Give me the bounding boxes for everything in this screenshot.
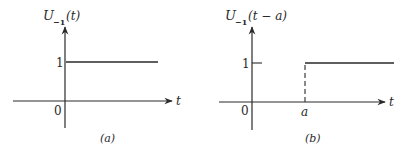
x-label-b: t	[389, 95, 394, 109]
panel-a: U −1 (t) 1 0 t (a)	[13, 8, 181, 145]
level-label-a: 1	[56, 56, 64, 70]
y-label-arg-b: (t − a)	[248, 9, 287, 23]
step-label-b: a	[301, 105, 308, 119]
caption-a: (a)	[100, 132, 115, 145]
level-label-b: 1	[242, 57, 250, 71]
y-label-arg-a: (t)	[66, 9, 81, 23]
step-function-figure: U −1 (t) 1 0 t (a) U −1 (t − a) 1 0 a t	[0, 0, 401, 153]
y-label-sub-a: −1	[53, 17, 65, 27]
y-label-sub-b: −1	[235, 17, 247, 27]
caption-b: (b)	[305, 132, 321, 145]
origin-label-b: 0	[241, 104, 249, 118]
x-label-a: t	[176, 94, 181, 108]
origin-label-a: 0	[54, 104, 62, 118]
panel-b: U −1 (t − a) 1 0 a t (b)	[219, 8, 394, 145]
